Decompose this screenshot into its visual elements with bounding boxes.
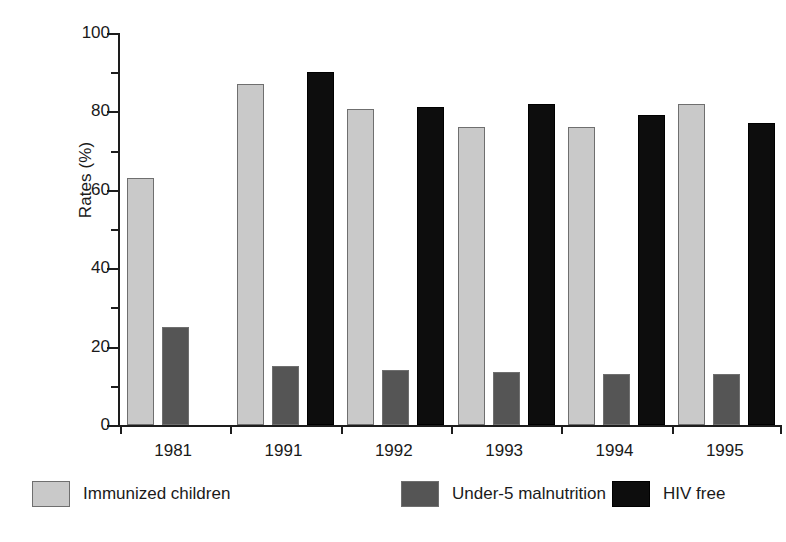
bar	[568, 127, 595, 425]
bar	[603, 374, 630, 425]
bar	[382, 370, 409, 425]
x-tick-mark	[341, 425, 343, 434]
legend-item: Immunized children	[32, 481, 230, 507]
legend-item: HIV free	[612, 481, 725, 507]
bar	[528, 104, 555, 425]
bar	[678, 104, 705, 425]
bar-group	[341, 33, 451, 425]
y-tick-label: 80	[91, 101, 110, 121]
bar	[307, 72, 334, 425]
x-tick-mark	[780, 425, 782, 434]
bar	[458, 127, 485, 425]
bar-groups	[120, 33, 780, 425]
bar	[493, 372, 520, 425]
legend-label: HIV free	[663, 484, 725, 504]
y-tick-label: 0	[101, 415, 110, 435]
y-tick-minor	[111, 72, 118, 74]
legend-swatch	[612, 481, 650, 507]
x-tick-label: 1995	[706, 441, 744, 461]
bar	[748, 123, 775, 425]
bar	[162, 327, 189, 425]
bar	[713, 374, 740, 425]
x-tick-label: 1993	[485, 441, 523, 461]
legend-swatch	[32, 481, 70, 507]
bar-group	[230, 33, 340, 425]
bar	[272, 366, 299, 425]
x-tick-label: 1992	[375, 441, 413, 461]
legend-swatch	[401, 481, 439, 507]
legend-label: Immunized children	[83, 484, 230, 504]
plot-area: 020406080100 198119911992199319941995	[118, 33, 780, 426]
bar	[347, 109, 374, 425]
x-tick-mark	[561, 425, 563, 434]
legend-item: Under-5 malnutrition	[401, 481, 606, 507]
bar	[417, 107, 444, 425]
bar-group	[672, 33, 782, 425]
y-tick-minor	[111, 307, 118, 309]
y-tick-minor	[111, 229, 118, 231]
chart-legend: Immunized childrenUnder-5 malnutritionHI…	[0, 481, 786, 525]
y-tick-label: 20	[91, 337, 110, 357]
bar	[638, 115, 665, 425]
bar-group	[561, 33, 671, 425]
bar-group	[120, 33, 230, 425]
y-tick-label: 100	[82, 23, 110, 43]
x-tick-mark	[672, 425, 674, 434]
y-tick-label: 40	[91, 258, 110, 278]
x-tick-label: 1991	[265, 441, 303, 461]
bar	[237, 84, 264, 425]
y-tick-label: 60	[91, 180, 110, 200]
y-tick-minor	[111, 386, 118, 388]
y-tick-minor	[111, 151, 118, 153]
x-tick-mark	[451, 425, 453, 434]
x-tick-label: 1981	[154, 441, 192, 461]
bar-group	[451, 33, 561, 425]
legend-label: Under-5 malnutrition	[452, 484, 606, 504]
x-tick-mark	[230, 425, 232, 434]
bar-chart: Rates (%) 020406080100 19811991199219931…	[0, 0, 786, 542]
bar	[127, 178, 154, 425]
x-axis-line	[118, 425, 780, 427]
x-tick-label: 1994	[596, 441, 634, 461]
x-tick-mark	[120, 425, 122, 434]
